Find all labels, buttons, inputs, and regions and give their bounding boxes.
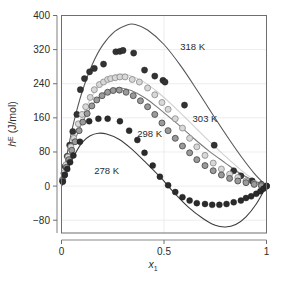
y-tick-label: 320 (33, 44, 50, 55)
data-point (70, 152, 76, 158)
data-point (209, 202, 215, 208)
excess-enthalpy-chart: −8008016024032040000.51 318 K303 K298 K2… (0, 0, 285, 283)
annotation-303-k: 303 K (193, 113, 218, 124)
data-point (172, 116, 178, 122)
data-point (86, 118, 92, 124)
y-tick-label: 240 (33, 78, 50, 89)
data-point (110, 88, 116, 94)
data-point (100, 61, 106, 67)
data-point (130, 93, 136, 99)
x-tick-label: 0.5 (157, 246, 171, 257)
data-point (77, 139, 83, 145)
x-tick-label: 1 (264, 246, 270, 257)
data-point (210, 168, 216, 174)
data-point (129, 76, 135, 82)
x-tick-label: 0 (59, 246, 65, 257)
data-point (179, 143, 185, 149)
data-point (77, 87, 83, 93)
data-point (105, 116, 111, 122)
data-point (152, 92, 158, 98)
data-point (194, 144, 200, 150)
data-point (187, 198, 193, 204)
annotation-298-k: 298 K (137, 128, 162, 139)
data-point (84, 111, 90, 117)
data-point (122, 74, 128, 80)
annotation-318-k: 318 K (180, 41, 205, 52)
data-point (60, 179, 66, 185)
data-point (91, 87, 97, 93)
data-point (179, 125, 185, 131)
data-point (165, 106, 171, 112)
data-point (64, 166, 70, 172)
data-point (94, 97, 100, 103)
data-point (136, 79, 142, 85)
data-point (70, 128, 76, 134)
data-point (224, 201, 230, 207)
data-point (126, 128, 132, 134)
y-tick-label: 80 (39, 146, 51, 157)
data-point (202, 201, 208, 207)
data-point (67, 159, 73, 165)
data-point (165, 182, 171, 188)
data-point (131, 50, 137, 56)
data-point (159, 120, 165, 126)
y-tick-label: 0 (44, 181, 50, 192)
data-point (95, 116, 101, 122)
data-point (218, 166, 224, 172)
data-point (116, 87, 122, 93)
data-point (172, 135, 178, 141)
data-point (91, 65, 97, 71)
data-point (89, 103, 95, 109)
data-point (202, 152, 208, 158)
y-tick-label: 400 (33, 10, 50, 21)
data-point (123, 89, 129, 95)
y-tick-label: 160 (33, 112, 50, 123)
chart-canvas: −8008016024032040000.51 318 K303 K298 K2… (0, 0, 285, 283)
data-point (211, 142, 217, 148)
data-point (105, 89, 111, 95)
data-point (142, 150, 148, 156)
data-point (141, 67, 147, 73)
data-point (117, 118, 123, 124)
data-point (145, 85, 151, 91)
data-point (162, 79, 168, 85)
data-point (172, 189, 178, 195)
data-point (62, 172, 68, 178)
data-point (210, 160, 216, 166)
data-point (181, 102, 187, 108)
data-point (231, 199, 237, 205)
data-point (152, 111, 158, 117)
data-point (227, 175, 233, 181)
x-axis-title-sub: 1 (154, 265, 158, 272)
data-point (235, 178, 241, 184)
data-point (99, 93, 105, 99)
data-point (145, 104, 151, 110)
y-tick-label: −80 (33, 215, 50, 226)
data-point (120, 47, 126, 53)
data-point (243, 180, 249, 186)
data-point (87, 94, 93, 100)
data-point (81, 76, 87, 82)
data-point (76, 128, 82, 134)
data-point (179, 194, 185, 200)
data-point (194, 157, 200, 163)
data-point (157, 174, 163, 180)
data-point (150, 163, 156, 169)
data-point (194, 200, 200, 206)
data-point (218, 172, 224, 178)
annotation-278-k: 278 K (94, 165, 119, 176)
data-point (202, 163, 208, 169)
data-point (187, 135, 193, 141)
data-point (251, 181, 257, 187)
data-point (165, 128, 171, 134)
data-point (80, 119, 86, 125)
data-point (216, 202, 222, 208)
data-point (159, 100, 165, 106)
data-point (187, 150, 193, 156)
data-point (83, 104, 89, 110)
data-point (137, 98, 143, 104)
data-point (152, 73, 158, 79)
y-axis-title-unit: (J/mol) (6, 101, 18, 136)
